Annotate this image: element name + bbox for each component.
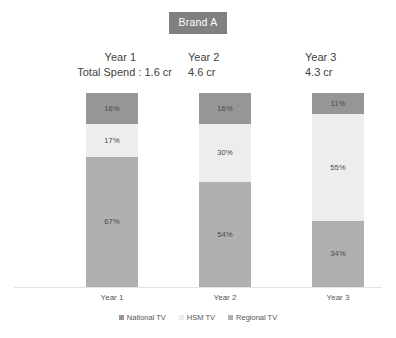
column-header-year2-year: Year 2 xyxy=(188,50,219,65)
legend-item-regional-tv[interactable]: Regional TV xyxy=(228,314,277,322)
column-header-year1-year: Year 1 xyxy=(4,50,172,65)
bar-year3-label-hsm: 55% xyxy=(330,164,345,172)
bar-year3-segment-regional[interactable]: 34% xyxy=(312,221,364,287)
bar-year3-segment-national[interactable]: 11% xyxy=(312,93,364,114)
square-swatch-icon xyxy=(228,315,233,320)
x-axis-label-year3: Year 3 xyxy=(308,292,368,303)
bar-year3[interactable]: 11% 55% 34% xyxy=(312,93,364,287)
column-header-year2: Year 2 4.6 cr xyxy=(188,50,219,79)
x-axis-label-year2: Year 2 xyxy=(195,292,255,303)
chart-legend: National TV HSM TV Regional TV xyxy=(0,314,396,322)
legend-label-national-tv: National TV xyxy=(127,314,166,322)
bar-year1-label-hsm: 17% xyxy=(104,137,119,145)
x-axis-labels: Year 1 Year 2 Year 3 xyxy=(0,292,396,308)
bar-year3-label-national: 11% xyxy=(331,100,346,108)
bar-year3-segment-hsm[interactable]: 55% xyxy=(312,114,364,221)
bar-year2-label-national: 16% xyxy=(217,105,232,113)
column-header-year1: Year 1 Total Spend : 1.6 cr xyxy=(4,50,172,79)
stacked-bar-chart: Brand A Year 1 Total Spend : 1.6 cr Year… xyxy=(0,0,396,338)
x-axis-label-year1: Year 1 xyxy=(82,292,142,303)
column-header-year3: Year 3 4.3 cr xyxy=(305,50,336,79)
bar-year2-segment-national[interactable]: 16% xyxy=(199,93,251,124)
bar-year1[interactable]: 16% 17% 67% xyxy=(86,93,138,287)
bar-year2[interactable]: 16% 30% 54% xyxy=(199,93,251,287)
column-headers: Year 1 Total Spend : 1.6 cr Year 2 4.6 c… xyxy=(0,50,396,86)
column-header-year3-spend: 4.3 cr xyxy=(305,65,336,80)
brand-title-badge: Brand A xyxy=(169,12,228,34)
bar-year1-segment-regional[interactable]: 67% xyxy=(86,157,138,287)
legend-item-hsm-tv[interactable]: HSM TV xyxy=(179,314,215,322)
x-axis-line xyxy=(14,287,382,288)
bar-year2-segment-hsm[interactable]: 30% xyxy=(199,124,251,182)
bar-year2-label-hsm: 30% xyxy=(217,149,232,157)
legend-label-hsm-tv: HSM TV xyxy=(187,314,215,322)
column-header-year3-year: Year 3 xyxy=(305,50,336,65)
bar-year3-label-regional: 34% xyxy=(330,250,345,258)
chart-title-container: Brand A xyxy=(0,12,396,34)
square-swatch-icon xyxy=(179,315,184,320)
plot-area: 16% 17% 67% 16% 30% 54% 11% xyxy=(0,93,396,287)
bar-year1-segment-national[interactable]: 16% xyxy=(86,93,138,124)
bar-year1-label-regional: 67% xyxy=(104,218,119,226)
legend-label-regional-tv: Regional TV xyxy=(236,314,277,322)
column-header-year1-spend: Total Spend : 1.6 cr xyxy=(4,65,172,80)
bar-year2-segment-regional[interactable]: 54% xyxy=(199,182,251,287)
square-swatch-icon xyxy=(119,315,124,320)
bar-year1-label-national: 16% xyxy=(104,105,119,113)
column-header-year2-spend: 4.6 cr xyxy=(188,65,219,80)
bar-year2-label-regional: 54% xyxy=(217,231,232,239)
bar-year1-segment-hsm[interactable]: 17% xyxy=(86,124,138,157)
legend-item-national-tv[interactable]: National TV xyxy=(119,314,166,322)
